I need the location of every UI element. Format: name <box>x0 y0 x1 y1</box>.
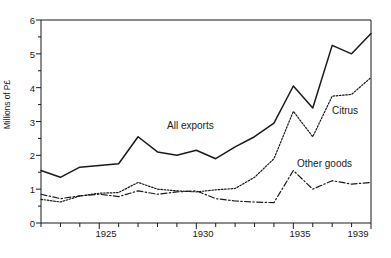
series-path-other-goods <box>41 171 371 203</box>
y-tick-label-4: 4 <box>21 83 35 94</box>
y-tick-label-6: 6 <box>21 15 35 26</box>
series-label-all-exports: All exports <box>167 120 214 131</box>
x-tick-label-1930: 1930 <box>183 228 223 239</box>
series-path-citrus <box>41 78 371 203</box>
series-label-other-goods: Other goods <box>297 158 352 169</box>
y-axis-ticks <box>36 20 41 223</box>
chart-figure: Millions of P£ 0 1 2 3 4 5 6 1925 1930 1… <box>0 0 391 258</box>
series-label-citrus: Citrus <box>332 105 358 116</box>
y-tick-label-0: 0 <box>21 218 35 229</box>
series-lines <box>41 34 371 203</box>
y-tick-label-5: 5 <box>21 49 35 60</box>
y-tick-label-2: 2 <box>21 150 35 161</box>
y-tick-label-3: 3 <box>21 117 35 128</box>
x-tick-label-1939: 1939 <box>338 228 378 239</box>
series-path-all-exports <box>41 34 371 178</box>
x-tick-label-1925: 1925 <box>86 228 126 239</box>
x-tick-label-1935: 1935 <box>280 228 320 239</box>
y-tick-label-1: 1 <box>21 184 35 195</box>
